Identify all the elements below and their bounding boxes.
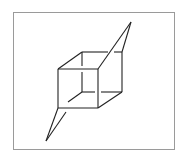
top-spike <box>98 22 131 69</box>
front-face <box>58 69 98 108</box>
depth-edges <box>58 52 122 108</box>
bottom-spike <box>46 108 66 141</box>
back-face <box>82 52 122 92</box>
cube-with-spikes-diagram <box>0 0 183 159</box>
